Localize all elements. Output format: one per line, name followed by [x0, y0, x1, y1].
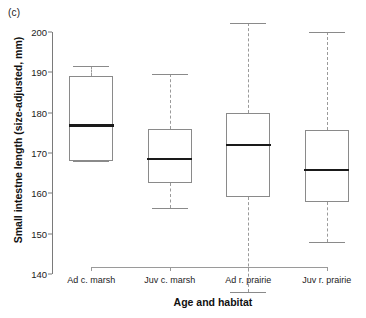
y-tick-mark [48, 112, 52, 113]
median-line [304, 169, 349, 172]
whisker-cap-upper [152, 74, 188, 75]
y-tick-label: 190 [31, 67, 47, 78]
whisker-cap-lower [230, 292, 266, 293]
x-axis-title: Age and habitat [60, 296, 366, 308]
x-tick-mark [170, 267, 171, 271]
whisker-cap-lower [309, 242, 345, 243]
whisker-cap-lower [73, 161, 109, 162]
whisker-lower [248, 197, 249, 292]
boxplot-figure: (c) Small intestne length (size-adjusted… [0, 0, 366, 318]
whisker-lower [170, 183, 171, 208]
median-line [147, 158, 192, 161]
y-axis-line [52, 32, 53, 274]
y-tick-label: 150 [31, 228, 47, 239]
y-tick-mark [48, 193, 52, 194]
x-tick-label: Juv c. marsh [144, 275, 195, 285]
y-tick-mark [48, 233, 52, 234]
whisker-cap-upper [309, 32, 345, 33]
box-iqr [69, 76, 113, 161]
whisker-cap-lower [152, 208, 188, 209]
y-tick-label: 140 [31, 269, 47, 280]
x-tick-label: Ad c. marsh [67, 275, 115, 285]
box-iqr [148, 129, 192, 183]
box-iqr [305, 130, 349, 203]
y-tick-label: 200 [31, 27, 47, 38]
y-tick-mark [48, 32, 52, 33]
y-tick-label: 160 [31, 188, 47, 199]
y-tick-mark [48, 153, 52, 154]
y-tick-label: 180 [31, 107, 47, 118]
box-iqr [226, 113, 270, 198]
median-line [69, 124, 114, 127]
whisker-upper [170, 74, 171, 128]
whisker-cap-upper [230, 23, 266, 24]
whisker-cap-upper [73, 66, 109, 67]
y-tick-label: 170 [31, 148, 47, 159]
whisker-upper [248, 23, 249, 113]
y-tick-mark [48, 274, 52, 275]
median-line [226, 144, 271, 147]
x-tick-mark [327, 267, 328, 271]
x-tick-label: Juv r. prairie [302, 275, 351, 285]
y-axis-title: Small intestne length (size-adjusted, mm… [12, 16, 24, 264]
x-tick-mark [91, 267, 92, 271]
plot-area: 140150160170180190200 Ad c. marshJuv c. … [52, 18, 366, 280]
y-tick-mark [48, 72, 52, 73]
whisker-upper [327, 32, 328, 130]
whisker-upper [91, 66, 92, 76]
whisker-lower [327, 202, 328, 242]
y-axis-title-container: Small intestne length (size-adjusted, mm… [0, 0, 24, 290]
x-axis-line [91, 267, 327, 268]
